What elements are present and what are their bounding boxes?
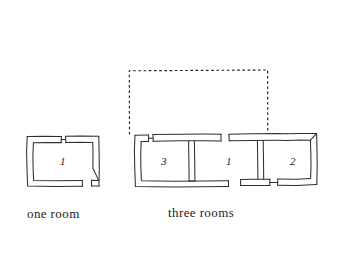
room-number-three-rooms-3: 3 xyxy=(161,155,167,167)
floor-plan-figure: 1 3 1 2 one room three rooms xyxy=(0,0,351,280)
room-number-three-rooms-2: 2 xyxy=(290,155,296,167)
caption-one-room: one room xyxy=(27,206,80,222)
dashed-outline-overlay xyxy=(129,70,267,135)
room-number-one-room-1: 1 xyxy=(60,155,66,167)
caption-three-rooms: three rooms xyxy=(168,205,234,221)
room-number-three-rooms-1: 1 xyxy=(226,155,232,167)
floor-plan-drawing xyxy=(0,0,351,280)
